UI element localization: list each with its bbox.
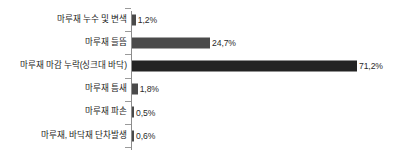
- bar-track: 1,2%: [132, 14, 157, 25]
- plot-area: 마루재 누수 및 변색 1,2% 마루재 들뜸 24,7% 마루재 마감 누락(…: [0, 8, 411, 153]
- bar-track: 0,5%: [132, 107, 155, 118]
- bar-category-label: 마루재 누수 및 변색: [57, 15, 127, 24]
- bar-fill: [132, 60, 357, 71]
- bar-category-label: 마루재 파손: [85, 108, 127, 117]
- bar-row-list: 마루재 누수 및 변색 1,2% 마루재 들뜸 24,7% 마루재 마감 누락(…: [0, 8, 411, 147]
- table-row: 마루재 들뜸 24,7%: [0, 31, 411, 54]
- table-row: 마루재 틈새 1,8%: [0, 78, 411, 101]
- table-row: 마루재 파손 0,5%: [0, 101, 411, 124]
- bar-value-label: 24,7%: [212, 38, 236, 47]
- bar-track: 0,6%: [132, 130, 155, 141]
- axis-tick: [125, 31, 131, 32]
- bar-category-label: 마루재 틈새: [85, 84, 127, 93]
- axis-tick: [125, 78, 131, 79]
- bar-fill: [132, 107, 134, 118]
- table-row: 마루재 마감 누락(싱크대 바닥) 71,2%: [0, 54, 411, 77]
- bar-category-label: 마루재 마감 누락(싱크대 바닥): [20, 61, 127, 70]
- bar-track: 71,2%: [132, 60, 383, 71]
- bar-fill: [132, 84, 138, 95]
- axis-tick: [125, 147, 131, 148]
- table-row: 마루재 누수 및 변색 1,2%: [0, 8, 411, 31]
- bar-category-label: 마루재 들뜸: [85, 38, 127, 47]
- axis-tick: [125, 101, 131, 102]
- table-row: 마루재, 바닥재 단차발생 0,6%: [0, 124, 411, 147]
- axis-tick: [125, 8, 131, 9]
- axis-tick: [125, 54, 131, 55]
- bar-value-label: 71,2%: [359, 62, 383, 71]
- bar-fill: [132, 37, 210, 48]
- bar-value-label: 1,8%: [140, 85, 159, 94]
- bar-category-label: 마루재, 바닥재 단차발생: [41, 131, 127, 140]
- bar-track: 1,8%: [132, 84, 159, 95]
- bar-track: 24,7%: [132, 37, 236, 48]
- bar-value-label: 1,2%: [138, 15, 157, 24]
- axis-tick: [125, 124, 131, 125]
- bar-chart: 마루재 누수 및 변색 1,2% 마루재 들뜸 24,7% 마루재 마감 누락(…: [0, 0, 411, 161]
- bar-fill: [132, 130, 134, 141]
- bar-value-label: 0,5%: [136, 108, 155, 117]
- bar-value-label: 0,6%: [136, 131, 155, 140]
- bar-fill: [132, 14, 136, 25]
